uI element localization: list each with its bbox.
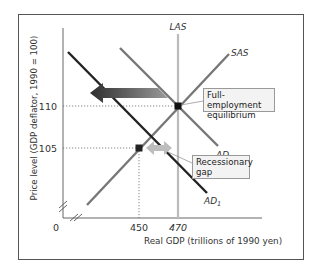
y-axis-title: Price level (GDP deflator, 1990 = 100) (29, 36, 39, 201)
x-tick-470: 470 (169, 222, 187, 233)
ad-as-diagram: 110 105 0 450 470 Real GDP (trillions of… (0, 0, 318, 278)
origin-label: 0 (53, 222, 59, 233)
las-label: LAS (170, 22, 187, 32)
sas-curve (87, 54, 229, 205)
ad1-label: AD1 (203, 196, 221, 208)
recessionary-gap-callout: Recessionary gap (192, 155, 250, 179)
x-tick-450: 450 (130, 222, 148, 233)
full-employment-equilibrium-point (175, 103, 182, 110)
full-employment-callout: Full-employment equilibrium (203, 88, 275, 112)
recessionary-equilibrium-point (136, 145, 143, 152)
y-tick-105: 105 (39, 143, 57, 154)
x-axis-title: Real GDP (trillions of 1990 yen) (144, 236, 282, 246)
sas-label: SAS (231, 48, 249, 58)
ad1-curve (68, 52, 207, 193)
ad-shift-arrow-icon (90, 83, 168, 103)
y-tick-110: 110 (39, 101, 57, 112)
